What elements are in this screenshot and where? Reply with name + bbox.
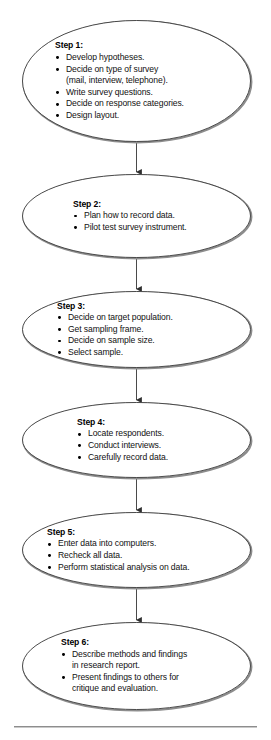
bullet-dot-icon — [62, 653, 65, 656]
flow-node-step-3[interactable]: Step 3: Decide on target population. Get… — [21, 290, 252, 369]
list-item: Enter data into computers. — [47, 538, 244, 550]
list-item: Design layout. — [55, 110, 240, 122]
step-title: Step 3: — [57, 301, 240, 313]
flow-node-step-2[interactable]: Step 2: Plan how to record data. Pilot t… — [21, 173, 252, 259]
bullet-dot-icon — [56, 103, 59, 106]
flow-node-step-5[interactable]: Step 5: Enter data into computers. Reche… — [21, 511, 252, 589]
bullet-dot-icon — [48, 566, 51, 569]
step-title: Step 5: — [47, 527, 244, 539]
list-item: Write survey questions. — [55, 87, 240, 99]
list-item: Develop hypotheses. — [55, 52, 240, 64]
bullet-dot-icon — [78, 456, 81, 459]
bullet-dot-icon — [56, 56, 59, 59]
bullet-dot-icon — [56, 91, 59, 94]
flow-node-step-6[interactable]: Step 6: Describe methods and findings in… — [21, 621, 252, 711]
bullet-dot-icon — [48, 543, 51, 546]
list-item: Decide on type of survey (mail, intervie… — [55, 64, 240, 87]
list-item: Decide on sample size. — [57, 335, 240, 347]
survey-steps-flowchart: Step 1: Develop hypotheses. Decide on ty… — [0, 0, 271, 740]
bullet-dot-icon — [48, 554, 51, 557]
list-item: Select sample. — [57, 347, 240, 359]
bullet-dot-icon — [74, 215, 77, 218]
list-item: Locate respondents. — [77, 428, 240, 440]
list-item: Describe methods and findings in researc… — [61, 649, 240, 672]
bullet-dot-icon — [58, 328, 61, 331]
step-bullet-list: Enter data into computers. Recheck all d… — [47, 538, 244, 573]
flow-node-step-1[interactable]: Step 1: Develop hypotheses. Decide on ty… — [21, 19, 252, 143]
step-title: Step 1: — [55, 40, 240, 52]
bullet-dot-icon — [78, 444, 81, 447]
bullet-dot-icon — [56, 68, 59, 71]
list-item: Decide on target population. — [57, 312, 240, 324]
step-bullet-list: Develop hypotheses. Decide on type of su… — [55, 52, 240, 122]
flow-node-step-4[interactable]: Step 4: Locate respondents. Conduct inte… — [21, 401, 252, 479]
step-title: Step 2: — [73, 199, 240, 211]
step-title: Step 6: — [61, 637, 240, 649]
bullet-dot-icon — [74, 226, 77, 229]
list-item: Carefully record data. — [77, 452, 240, 464]
bullet-dot-icon — [58, 316, 61, 319]
list-item: Recheck all data. — [47, 550, 244, 562]
list-item: Get sampling frame. — [57, 324, 240, 336]
list-item: Pilot test survey instrument. — [73, 222, 240, 234]
bottom-divider — [14, 726, 257, 728]
step-bullet-list: Plan how to record data. Pilot test surv… — [73, 210, 240, 233]
bullet-dot-icon — [56, 114, 59, 117]
bullet-dot-icon — [58, 340, 61, 343]
step-bullet-list: Describe methods and findings in researc… — [61, 649, 240, 695]
list-item: Plan how to record data. — [73, 210, 240, 222]
list-item: Perform statistical analysis on data. — [47, 562, 244, 574]
list-item: Present findings to others for critique … — [61, 672, 240, 695]
step-bullet-list: Locate respondents. Conduct interviews. … — [77, 428, 240, 463]
list-item: Decide on response categories. — [55, 98, 240, 110]
step-title: Step 4: — [77, 417, 240, 429]
bullet-dot-icon — [58, 351, 61, 354]
bullet-dot-icon — [62, 676, 65, 679]
step-bullet-list: Decide on target population. Get samplin… — [57, 312, 240, 358]
bullet-dot-icon — [78, 433, 81, 436]
list-item: Conduct interviews. — [77, 440, 240, 452]
